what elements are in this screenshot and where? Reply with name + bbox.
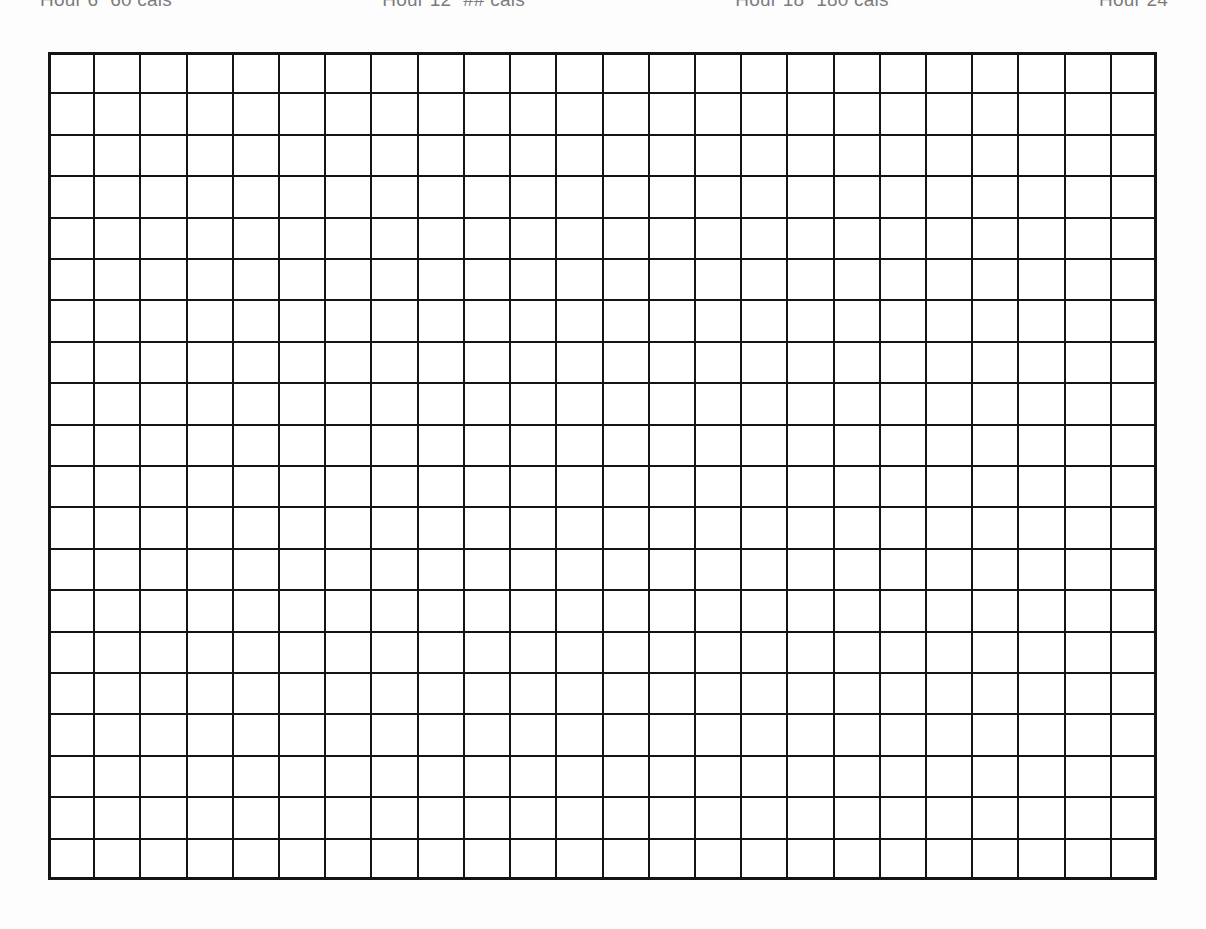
grid-cell[interactable]	[556, 590, 602, 631]
grid-cell[interactable]	[187, 797, 233, 838]
grid-cell[interactable]	[926, 93, 972, 134]
grid-cell[interactable]	[48, 839, 94, 880]
grid-cell[interactable]	[418, 839, 464, 880]
grid-cell[interactable]	[1065, 52, 1111, 93]
grid-cell[interactable]	[695, 507, 741, 548]
grid-cell[interactable]	[649, 300, 695, 341]
grid-cell[interactable]	[1018, 549, 1064, 590]
grid-cell[interactable]	[510, 466, 556, 507]
grid-cell[interactable]	[94, 632, 140, 673]
grid-cell[interactable]	[279, 507, 325, 548]
grid-cell[interactable]	[233, 218, 279, 259]
grid-cell[interactable]	[1111, 93, 1157, 134]
grid-cell[interactable]	[926, 425, 972, 466]
grid-cell[interactable]	[325, 259, 371, 300]
grid-cell[interactable]	[603, 383, 649, 424]
grid-cell[interactable]	[48, 135, 94, 176]
grid-cell[interactable]	[926, 176, 972, 217]
grid-cell[interactable]	[880, 549, 926, 590]
grid-cell[interactable]	[94, 176, 140, 217]
grid-cell[interactable]	[556, 93, 602, 134]
grid-cell[interactable]	[325, 839, 371, 880]
grid-cell[interactable]	[649, 342, 695, 383]
grid-cell[interactable]	[464, 466, 510, 507]
grid-cell[interactable]	[1018, 590, 1064, 631]
grid-cell[interactable]	[187, 342, 233, 383]
grid-cell[interactable]	[880, 93, 926, 134]
grid-cell[interactable]	[187, 383, 233, 424]
grid-cell[interactable]	[1065, 218, 1111, 259]
grid-cell[interactable]	[695, 176, 741, 217]
grid-cell[interactable]	[48, 549, 94, 590]
grid-cell[interactable]	[834, 839, 880, 880]
grid-cell[interactable]	[834, 342, 880, 383]
grid-cell[interactable]	[1018, 797, 1064, 838]
grid-cell[interactable]	[371, 52, 417, 93]
grid-cell[interactable]	[787, 300, 833, 341]
grid-cell[interactable]	[371, 632, 417, 673]
grid-cell[interactable]	[418, 756, 464, 797]
grid-cell[interactable]	[880, 383, 926, 424]
grid-cell[interactable]	[880, 218, 926, 259]
grid-cell[interactable]	[187, 549, 233, 590]
grid-cell[interactable]	[787, 632, 833, 673]
grid-cell[interactable]	[1111, 383, 1157, 424]
grid-cell[interactable]	[279, 590, 325, 631]
grid-cell[interactable]	[48, 632, 94, 673]
grid-cell[interactable]	[325, 218, 371, 259]
grid-cell[interactable]	[187, 300, 233, 341]
grid-cell[interactable]	[1111, 714, 1157, 755]
grid-cell[interactable]	[140, 52, 186, 93]
grid-cell[interactable]	[48, 176, 94, 217]
grid-cell[interactable]	[741, 673, 787, 714]
grid-cell[interactable]	[233, 135, 279, 176]
grid-cell[interactable]	[371, 839, 417, 880]
grid-cell[interactable]	[972, 52, 1018, 93]
grid-cell[interactable]	[233, 342, 279, 383]
grid-cell[interactable]	[325, 300, 371, 341]
grid-cell[interactable]	[1065, 135, 1111, 176]
grid-cell[interactable]	[695, 756, 741, 797]
grid-cell[interactable]	[140, 176, 186, 217]
grid-cell[interactable]	[371, 135, 417, 176]
grid-cell[interactable]	[325, 714, 371, 755]
grid-cell[interactable]	[510, 52, 556, 93]
grid-cell[interactable]	[48, 797, 94, 838]
grid-cell[interactable]	[1111, 300, 1157, 341]
grid-cell[interactable]	[94, 218, 140, 259]
grid-cell[interactable]	[464, 673, 510, 714]
grid-cell[interactable]	[834, 425, 880, 466]
grid-cell[interactable]	[418, 52, 464, 93]
grid-cell[interactable]	[787, 52, 833, 93]
grid-cell[interactable]	[787, 176, 833, 217]
grid-cell[interactable]	[834, 300, 880, 341]
grid-cell[interactable]	[510, 797, 556, 838]
grid-cell[interactable]	[880, 632, 926, 673]
grid-cell[interactable]	[418, 176, 464, 217]
grid-cell[interactable]	[695, 714, 741, 755]
grid-cell[interactable]	[1111, 466, 1157, 507]
grid-cell[interactable]	[695, 632, 741, 673]
grid-cell[interactable]	[140, 756, 186, 797]
grid-cell[interactable]	[233, 466, 279, 507]
grid-cell[interactable]	[1018, 93, 1064, 134]
grid-cell[interactable]	[371, 549, 417, 590]
grid-cell[interactable]	[880, 466, 926, 507]
grid-cell[interactable]	[140, 714, 186, 755]
grid-cell[interactable]	[233, 549, 279, 590]
grid-cell[interactable]	[187, 632, 233, 673]
grid-cell[interactable]	[48, 259, 94, 300]
grid-cell[interactable]	[371, 714, 417, 755]
grid-cell[interactable]	[787, 839, 833, 880]
grid-cell[interactable]	[187, 176, 233, 217]
grid-cell[interactable]	[1018, 218, 1064, 259]
grid-cell[interactable]	[510, 549, 556, 590]
grid-cell[interactable]	[1111, 507, 1157, 548]
grid-cell[interactable]	[834, 756, 880, 797]
grid-cell[interactable]	[972, 714, 1018, 755]
grid-cell[interactable]	[649, 507, 695, 548]
grid-cell[interactable]	[325, 673, 371, 714]
grid-cell[interactable]	[926, 135, 972, 176]
grid-cell[interactable]	[834, 259, 880, 300]
grid-cell[interactable]	[1018, 466, 1064, 507]
